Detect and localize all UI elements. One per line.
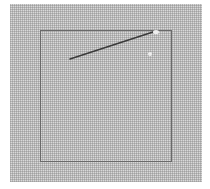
embroidery-canvas [10, 4, 202, 182]
needle-icon [10, 4, 202, 182]
